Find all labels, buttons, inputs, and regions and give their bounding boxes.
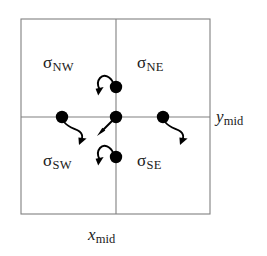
sigma-ne-label: σNE <box>137 54 164 73</box>
x-mid-variable: x <box>88 225 96 244</box>
sigma-sw-label: σSW <box>43 152 72 171</box>
sigma-se-label: σSE <box>137 152 162 171</box>
sigma-sw-symbol: σ <box>43 151 52 170</box>
y-mid-subscript: mid <box>224 114 244 128</box>
east-node <box>157 111 169 123</box>
figure-background <box>0 0 267 256</box>
sigma-ne-subscript: NE <box>146 60 163 74</box>
sigma-se-symbol: σ <box>137 151 146 170</box>
x-mid-axis-label: xmid <box>88 226 115 245</box>
sigma-nw-label: σNW <box>43 54 74 73</box>
north-node <box>110 81 122 93</box>
sigma-nw-symbol: σ <box>43 53 52 72</box>
sigma-se-subscript: SE <box>146 158 161 172</box>
y-mid-variable: y <box>216 107 224 126</box>
sigma-sw-subscript: SW <box>52 158 72 172</box>
sigma-nw-subscript: NW <box>52 60 74 74</box>
x-mid-subscript: mid <box>96 232 116 246</box>
diagram-canvas <box>0 0 267 256</box>
south-node <box>110 151 122 163</box>
west-node <box>56 111 68 123</box>
center-node <box>110 111 122 123</box>
y-mid-axis-label: ymid <box>216 108 243 127</box>
diagram-figure: σNW σNE σSW σSE ymid xmid <box>0 0 267 256</box>
sigma-ne-symbol: σ <box>137 53 146 72</box>
